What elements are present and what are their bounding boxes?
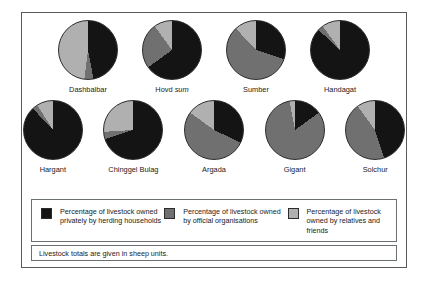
- legend-swatch-relatives: [288, 208, 299, 219]
- pie-chart: [226, 20, 286, 80]
- legend-item-official: Percentage of livestock owned by officia…: [164, 207, 284, 226]
- pie-row-2: HargantChinggel BulagArgadaGigantSolchur: [22, 100, 406, 174]
- legend-item-private: Percentage of livestock owned privately …: [41, 207, 161, 226]
- pie-cell: Chinggel Bulag: [103, 100, 165, 174]
- legend: Percentage of livestock owned privately …: [31, 199, 397, 242]
- pie-chart: [103, 100, 163, 160]
- pie-cell: Handagat: [309, 20, 371, 94]
- pie-cell: Argada: [183, 100, 245, 174]
- pie-label: Hovd sum: [155, 85, 188, 94]
- pie-cell: Gigant: [264, 100, 326, 174]
- legend-swatch-official: [164, 208, 175, 219]
- pie-chart: [345, 100, 405, 160]
- pie-label: Handagat: [324, 85, 356, 94]
- pie-label: Gigant: [284, 165, 306, 174]
- legend-label-official: Percentage of livestock owned by officia…: [183, 207, 284, 226]
- pie-label: Solchur: [363, 165, 388, 174]
- pie-label: Sumber: [243, 85, 269, 94]
- pie-cell: Solchur: [344, 100, 406, 174]
- pie-row-1: DashbalbarHovd sumSumberHandagat: [22, 20, 406, 94]
- pie-label: Argada: [202, 165, 226, 174]
- pie-chart: [58, 20, 118, 80]
- pie-cell: Sumber: [225, 20, 287, 94]
- footnote-text: Livestock totals are given in sheep unit…: [39, 249, 168, 258]
- figure-frame: DashbalbarHovd sumSumberHandagat Hargant…: [21, 12, 407, 268]
- pie-label: Dashbalbar: [69, 85, 107, 94]
- legend-swatch-private: [41, 208, 52, 219]
- pie-chart: [23, 100, 83, 160]
- legend-label-private: Percentage of livestock owned privately …: [60, 207, 161, 226]
- pie-label: Hargant: [40, 165, 66, 174]
- pie-chart: [310, 20, 370, 80]
- pie-label: Chinggel Bulag: [108, 165, 158, 174]
- pie-cell: Dashbalbar: [57, 20, 119, 94]
- legend-item-relatives: Percentage of livestock owned by relativ…: [288, 207, 396, 235]
- pie-chart: [265, 100, 325, 160]
- pie-chart: [184, 100, 244, 160]
- pie-chart: [142, 20, 202, 80]
- pie-cell: Hargant: [22, 100, 84, 174]
- pie-cell: Hovd sum: [141, 20, 203, 94]
- pie-chart-grid: DashbalbarHovd sumSumberHandagat Hargant…: [22, 13, 406, 174]
- legend-label-relatives: Percentage of livestock owned by relativ…: [307, 207, 396, 235]
- footnote-box: Livestock totals are given in sheep unit…: [31, 245, 397, 261]
